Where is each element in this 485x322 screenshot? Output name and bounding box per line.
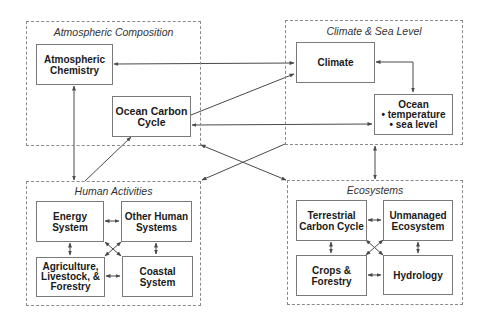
node-unmanaged-ecosystem: Unmanaged Ecosystem bbox=[383, 200, 453, 241]
group-title: Ecosystems bbox=[288, 184, 462, 196]
node-coastal-system: Coastal System bbox=[122, 256, 193, 297]
group-title: Human Activities bbox=[27, 185, 200, 197]
node-agriculture-livestock-forestry: Agriculture, Livestock, & Forestry bbox=[36, 257, 105, 297]
node-other-human-systems: Other Human Systems bbox=[121, 201, 192, 242]
node-crops-forestry: Crops & Forestry bbox=[296, 255, 367, 296]
node-terrestrial-carbon-cycle: Terrestrial Carbon Cycle bbox=[296, 200, 367, 241]
node-ocean-carbon-cycle: Ocean Carbon Cycle bbox=[112, 96, 191, 137]
node-energy-system: Energy System bbox=[36, 201, 104, 242]
node-hydrology: Hydrology bbox=[383, 255, 453, 295]
group-title: Atmospheric Composition bbox=[27, 26, 200, 38]
arrow-ocean-carbon-climate bbox=[191, 74, 294, 115]
node-ocean: Ocean • temperature • sea level bbox=[374, 94, 453, 135]
node-atmospheric-chemistry: Atmospheric Chemistry bbox=[36, 44, 113, 85]
group-title: Climate & Sea Level bbox=[286, 25, 462, 37]
node-climate: Climate bbox=[296, 42, 375, 83]
